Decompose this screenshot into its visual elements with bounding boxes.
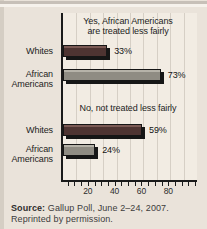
whites-category-label: Whites	[0, 125, 57, 135]
african-americans-bar	[63, 144, 95, 156]
group-title-2: No, not treated less fairly	[61, 103, 195, 113]
whites-category-label: Whites	[0, 46, 57, 56]
gridline	[130, 13, 131, 180]
top-strip-gap	[0, 4, 207, 7]
gridline	[157, 13, 158, 180]
value-label: 59%	[149, 124, 167, 136]
african-americans-category-label: African Americans	[0, 69, 57, 89]
axis-tick-label: 60	[137, 186, 146, 196]
plot-area: 33%73%59%24%	[61, 13, 197, 182]
poll-chart-panel: 33%73%59%24% Yes, African Americans are …	[0, 0, 207, 229]
value-label: 73%	[168, 69, 186, 81]
source-label: Source:	[11, 203, 45, 213]
whites-bar	[63, 45, 107, 57]
gridline	[143, 13, 144, 180]
source-note: Source: Gallup Poll, June 2–24, 2007. Re…	[11, 203, 199, 225]
value-label: 24%	[102, 144, 120, 156]
value-label: 33%	[114, 45, 132, 57]
african-americans-category-label: African Americans	[0, 144, 57, 164]
axis-tick-label: 40	[110, 186, 119, 196]
african-americans-bar	[63, 69, 161, 81]
whites-bar	[63, 124, 142, 136]
axis-tick-label: 80	[164, 186, 173, 196]
gridline	[184, 13, 185, 180]
group-title-1: Yes, African Americans are treated less …	[76, 16, 180, 36]
source-line2: Reprinted by permission.	[11, 214, 199, 225]
x-axis-tick-labels: 20406080	[61, 186, 195, 196]
gridline	[170, 13, 171, 180]
source-line1: Source: Gallup Poll, June 2–24, 2007.	[11, 203, 199, 214]
axis-tick	[195, 182, 196, 186]
source-text: Gallup Poll, June 2–24, 2007.	[45, 203, 169, 213]
axis-tick-label: 20	[83, 186, 92, 196]
page-edge-shadow	[0, 0, 4, 229]
